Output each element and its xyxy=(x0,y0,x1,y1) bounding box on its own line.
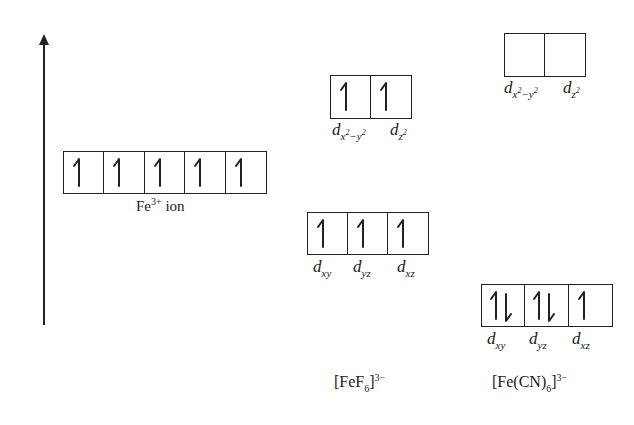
orbital-box xyxy=(104,152,144,193)
orbital-label-dx2y2: dx2−y2 xyxy=(332,120,366,142)
label-sub: yz xyxy=(362,267,371,279)
orbital-label-dz2: dz2 xyxy=(390,120,407,142)
electron-up-icon xyxy=(185,152,225,194)
orbital-box xyxy=(64,152,104,193)
label-sup: 2 xyxy=(576,86,580,95)
electron-up-icon xyxy=(308,213,348,255)
orbital-label-dxz: dxz xyxy=(397,257,415,279)
orbital-box xyxy=(482,285,525,326)
orbital-label-dxz: dxz xyxy=(572,329,590,351)
electron-up-icon xyxy=(226,152,266,194)
label-base: d xyxy=(572,329,581,348)
fecn6-t2g-orbitals xyxy=(481,284,613,327)
name-text: [Fe(CN) xyxy=(492,373,546,390)
electron-up-icon xyxy=(331,76,371,118)
orbital-box xyxy=(525,285,568,326)
electron-up-icon xyxy=(145,152,185,194)
free-ion-orbitals xyxy=(63,151,267,194)
electron-pair-icon xyxy=(525,285,568,327)
energy-axis-line xyxy=(43,42,45,325)
orbital-label-dz2: dz2 xyxy=(563,78,580,100)
complex-name-fef6: [FeF6]3− xyxy=(334,372,385,394)
electron-up-icon xyxy=(348,213,388,255)
orbital-box xyxy=(545,34,585,76)
electron-up-icon xyxy=(371,76,411,118)
label-sub: xy xyxy=(496,339,506,351)
caption-charge: 3+ xyxy=(151,196,162,207)
orbital-label-dx2y2: dx2−y2 xyxy=(504,78,538,100)
fecn6-eg-orbitals xyxy=(504,33,586,77)
label-sup: 2 xyxy=(534,86,538,95)
orbital-box xyxy=(569,285,612,326)
label-sub: yz xyxy=(538,339,547,351)
label-base: d xyxy=(397,257,406,276)
orbital-label-dxy: dxy xyxy=(313,257,331,279)
orbital-box xyxy=(308,213,348,254)
fef6-t2g-orbitals xyxy=(307,212,429,255)
orbital-label-dxy: dxy xyxy=(487,329,505,351)
orbital-box xyxy=(145,152,185,193)
orbital-box xyxy=(331,76,371,118)
electron-up-icon xyxy=(388,213,428,255)
orbital-box xyxy=(388,213,428,254)
electron-pair-icon xyxy=(482,285,525,327)
label-base: d xyxy=(504,78,513,97)
orbital-box xyxy=(348,213,388,254)
label-base: d xyxy=(487,329,496,348)
label-base: d xyxy=(563,78,572,97)
complex-name-fecn6: [Fe(CN)6]3− xyxy=(492,372,567,394)
electron-up-icon xyxy=(569,285,612,327)
caption-text: ion xyxy=(162,198,185,214)
electron-up-icon xyxy=(64,152,104,194)
orbital-box xyxy=(226,152,266,193)
orbital-box xyxy=(185,152,225,193)
name-charge: 3− xyxy=(557,372,568,383)
orbital-label-dyz: dyz xyxy=(353,257,371,279)
label-sub: xz xyxy=(406,267,415,279)
label-base: d xyxy=(332,120,341,139)
label-sup: 2 xyxy=(362,128,366,137)
electron-up-icon xyxy=(104,152,144,194)
arrow-up-icon xyxy=(39,34,49,45)
name-charge: 3− xyxy=(375,372,386,383)
label-base: d xyxy=(353,257,362,276)
label-base: d xyxy=(313,257,322,276)
label-sub: −y xyxy=(349,130,361,142)
label-base: d xyxy=(390,120,399,139)
label-sub: xz xyxy=(581,339,590,351)
orbital-label-dyz: dyz xyxy=(529,329,547,351)
free-ion-caption: Fe3+ ion xyxy=(136,196,185,215)
label-sub: xy xyxy=(322,267,332,279)
label-sup: 2 xyxy=(403,128,407,137)
name-text: [FeF xyxy=(334,373,364,390)
fef6-eg-orbitals xyxy=(330,75,412,119)
orbital-box xyxy=(505,34,545,76)
orbital-box xyxy=(371,76,411,118)
caption-text: Fe xyxy=(136,198,151,214)
label-sub: −y xyxy=(521,88,533,100)
label-base: d xyxy=(529,329,538,348)
